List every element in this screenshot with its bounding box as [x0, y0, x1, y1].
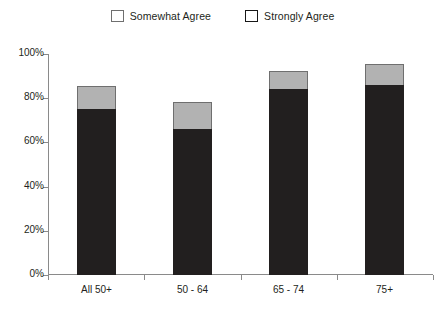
stacked-bar-chart: Somewhat Agree Strongly Agree 0%20%40%60… — [0, 0, 445, 310]
bar-segment-strongly-agree — [365, 85, 404, 275]
y-axis-tick-label: 20% — [24, 224, 44, 235]
bar-segment-strongly-agree — [77, 109, 116, 275]
bar-group: 65 - 74 — [269, 54, 308, 275]
x-axis-category-label: 75+ — [325, 284, 445, 295]
x-axis-tick-mark — [241, 275, 242, 280]
bar-segment-somewhat-agree — [77, 86, 116, 109]
bar-segment-somewhat-agree — [173, 102, 212, 130]
x-axis-tick-mark — [337, 275, 338, 280]
bar-group: All 50+ — [77, 54, 116, 275]
bar-group: 50 - 64 — [173, 54, 212, 275]
y-axis-tick-label: 40% — [24, 180, 44, 191]
legend-item-somewhat-agree: Somewhat Agree — [111, 10, 211, 22]
y-axis-tick-label: 0% — [30, 268, 44, 279]
legend-label-somewhat-agree: Somewhat Agree — [130, 10, 211, 22]
legend-swatch-somewhat-agree — [111, 10, 124, 22]
bar-segment-somewhat-agree — [269, 71, 308, 90]
x-axis-tick-mark — [144, 275, 145, 280]
bar-segment-strongly-agree — [173, 129, 212, 275]
bar-group: 75+ — [365, 54, 404, 275]
bar-segment-strongly-agree — [269, 89, 308, 275]
y-axis-tick-label: 100% — [18, 47, 44, 58]
y-axis-tick-label: 80% — [24, 91, 44, 102]
y-axis-tick-label: 60% — [24, 135, 44, 146]
legend-label-strongly-agree: Strongly Agree — [264, 10, 334, 22]
x-axis-tick-mark — [48, 275, 49, 280]
plot-area: 0%20%40%60%80%100% All 50+50 - 6465 - 74… — [48, 54, 433, 275]
chart-legend: Somewhat Agree Strongly Agree — [0, 6, 445, 26]
legend-swatch-strongly-agree — [245, 10, 258, 22]
x-axis-tick-mark — [433, 275, 434, 280]
bar-segment-somewhat-agree — [365, 64, 404, 85]
y-axis-line — [48, 54, 49, 275]
legend-item-strongly-agree: Strongly Agree — [245, 10, 334, 22]
